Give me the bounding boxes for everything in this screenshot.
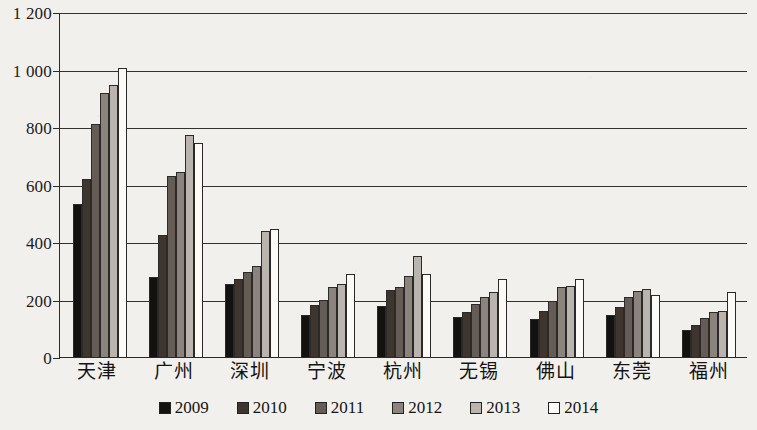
bar-2009 (149, 277, 158, 358)
bar-2010 (462, 312, 471, 357)
y-tick-mark (53, 128, 60, 129)
bar-group (377, 13, 431, 357)
bar-2012 (557, 287, 566, 357)
plot-area (59, 13, 747, 358)
bar-2010 (310, 305, 319, 357)
legend-item-2012[interactable]: 2012 (392, 399, 442, 416)
x-tick-label: 无锡 (459, 360, 499, 383)
legend-label: 2013 (486, 399, 520, 416)
y-tick-label: 200 (26, 293, 52, 310)
bar-2009 (606, 315, 615, 357)
bar-group (682, 13, 736, 357)
x-tick-label: 深圳 (230, 360, 270, 383)
y-tick-mark (53, 186, 60, 187)
bar-2012 (709, 312, 718, 357)
y-tick-label: 1 000 (13, 63, 52, 80)
bar-2012 (633, 291, 642, 357)
bar-2012 (176, 172, 185, 357)
bar-2012 (328, 287, 337, 357)
bar-2010 (158, 235, 167, 357)
x-tick-label: 广州 (154, 360, 194, 383)
legend-swatch-icon (237, 402, 249, 414)
legend-item-2009[interactable]: 2009 (159, 399, 209, 416)
bar-2013 (337, 284, 346, 357)
x-tick-label: 宁波 (307, 360, 347, 383)
legend-swatch-icon (159, 402, 171, 414)
legend-swatch-icon (470, 402, 482, 414)
bar-2012 (100, 93, 109, 358)
legend-label: 2011 (331, 399, 364, 416)
bar-2013 (413, 256, 422, 357)
bar-2014 (575, 279, 584, 357)
y-tick-label: 0 (43, 350, 52, 367)
bar-2012 (252, 266, 261, 357)
bar-2011 (548, 301, 557, 357)
legend-label: 2012 (408, 399, 442, 416)
bar-2014 (498, 279, 507, 357)
bar-2013 (642, 289, 651, 357)
y-tick-mark (53, 13, 60, 14)
bar-2010 (539, 311, 548, 357)
bar-2013 (109, 85, 118, 357)
legend-item-2013[interactable]: 2013 (470, 399, 520, 416)
y-tick-mark (53, 301, 60, 302)
bar-2010 (234, 279, 243, 357)
bar-2010 (82, 179, 91, 357)
legend-swatch-icon (392, 402, 404, 414)
bar-2013 (261, 231, 270, 358)
y-tick-mark (53, 243, 60, 244)
legend-item-2014[interactable]: 2014 (548, 399, 598, 416)
bar-2009 (453, 317, 462, 357)
legend-label: 2010 (253, 399, 287, 416)
bar-2012 (480, 297, 489, 357)
legend-item-2011[interactable]: 2011 (315, 399, 364, 416)
bar-2014 (194, 143, 203, 357)
bar-group (453, 13, 507, 357)
bar-2011 (624, 297, 633, 357)
legend: 200920102011201220132014 (0, 399, 757, 416)
bar-group (225, 13, 279, 357)
legend-label: 2009 (175, 399, 209, 416)
bar-group (73, 13, 127, 357)
bar-2009 (530, 319, 539, 357)
bar-2014 (270, 229, 279, 357)
bar-2011 (91, 124, 100, 357)
x-tick-label: 福州 (689, 360, 729, 383)
y-tick-label: 800 (26, 120, 52, 137)
bar-2011 (700, 318, 709, 357)
x-tick-label: 东莞 (612, 360, 652, 383)
legend-swatch-icon (548, 402, 560, 414)
bar-2011 (471, 304, 480, 357)
bar-2010 (386, 290, 395, 357)
y-axis: 1 200 1 000 800 600 400 200 0 (0, 0, 52, 430)
bar-2014 (118, 68, 127, 357)
bar-groups (62, 13, 747, 357)
y-tick-label: 400 (26, 235, 52, 252)
y-tick-label: 1 200 (13, 5, 52, 22)
bar-2010 (691, 325, 700, 357)
y-tick-mark (53, 71, 60, 72)
x-tick-label: 佛山 (536, 360, 576, 383)
bar-2009 (301, 315, 310, 357)
bar-group (149, 13, 203, 357)
bar-2011 (243, 272, 252, 357)
bar-2009 (73, 204, 82, 357)
x-tick-label: 天津 (77, 360, 117, 383)
y-tick-label: 600 (26, 178, 52, 195)
bar-2011 (395, 287, 404, 357)
bar-2011 (319, 300, 328, 358)
bar-2013 (185, 135, 194, 357)
bar-2009 (377, 306, 386, 357)
y-tick-mark (53, 358, 60, 359)
bar-2014 (727, 292, 736, 357)
bar-2009 (682, 330, 691, 357)
x-tick-label: 杭州 (383, 360, 423, 383)
legend-label: 2014 (564, 399, 598, 416)
bar-2014 (346, 274, 355, 357)
legend-item-2010[interactable]: 2010 (237, 399, 287, 416)
bar-2013 (718, 311, 727, 357)
bar-2012 (404, 276, 413, 357)
bar-group (301, 13, 355, 357)
bar-2011 (167, 176, 176, 357)
x-axis: 天津广州深圳宁波杭州无锡佛山东莞福州 (59, 360, 747, 392)
